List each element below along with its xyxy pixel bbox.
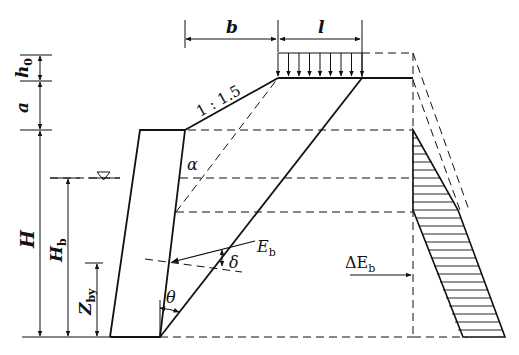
label-slope: 1 : 1.5 [193,81,244,120]
label-dEb: ΔEb [345,253,375,275]
uniform-load-icon [278,53,362,76]
water-level-icon [88,172,120,180]
Eb-force-arrow [172,241,255,266]
pressure-distribution [413,130,505,337]
label-Zby: Zby [75,288,98,316]
label-b: b [226,17,238,37]
label-delta: δ [229,253,239,272]
label-Eb: Eb [256,237,276,259]
label-H: H [16,229,38,249]
label-alpha: α [187,155,198,174]
label-l: l [318,17,325,37]
retaining-wall [110,78,413,337]
dashed-construction-lines [50,53,469,337]
retaining-wall-diagram: b l [0,0,519,355]
label-theta: θ [166,288,176,307]
label-h0: h0 [12,58,35,78]
top-dimensions [185,20,362,78]
label-a: a [12,102,32,113]
label-Hb: Hb [46,238,69,263]
